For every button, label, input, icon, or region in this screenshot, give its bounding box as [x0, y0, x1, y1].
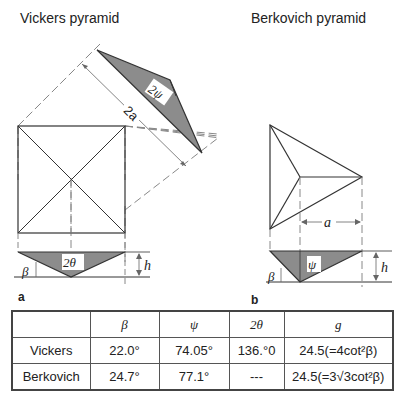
header-beta: β — [90, 311, 159, 338]
berkovich-a-label: a — [324, 215, 331, 230]
cell-psi: 74.05° — [159, 338, 229, 364]
two-theta-label: 2θ — [63, 255, 77, 270]
header-g: g — [284, 311, 393, 338]
table-row: Berkovich 24.7° 77.1° --- 24.5(=3√3cot²β… — [12, 364, 393, 391]
psi-label: ψ — [308, 257, 317, 272]
header-empty — [12, 311, 90, 338]
vickers-projection-lines — [18, 44, 220, 262]
header-two-theta: 2θ — [229, 311, 284, 338]
cell-two-theta: 136.°0 — [229, 338, 284, 364]
table-header-row: β ψ 2θ g — [12, 311, 393, 338]
row-name: Berkovich — [12, 364, 90, 391]
vickers-h-label: h — [144, 258, 151, 273]
cell-two-theta: --- — [229, 364, 284, 391]
table-row: Vickers 22.0° 74.05° 136.°0 24.5(=4cot²β… — [12, 338, 393, 364]
indenter-properties-table: β ψ 2θ g Vickers 22.0° 74.05° 136.°0 24.… — [11, 310, 394, 391]
panel-label-a: a — [18, 290, 25, 304]
cell-beta: 22.0° — [90, 338, 159, 364]
cell-beta: 24.7° — [90, 364, 159, 391]
cell-g: 24.5(=4cot²β) — [284, 338, 393, 364]
berkovich-h-label: h — [381, 260, 388, 275]
cell-g: 24.5(=3√3cot²β) — [284, 364, 393, 391]
vickers-beta-label: β — [21, 264, 29, 279]
row-name: Vickers — [12, 338, 90, 364]
header-psi: ψ — [159, 311, 229, 338]
cell-psi: 77.1° — [159, 364, 229, 391]
berkovich-beta-label: β — [267, 269, 275, 284]
panel-label-b: b — [251, 293, 258, 307]
pyramid-diagrams: 2ψ 2a 2θ β h a ψ β h — [0, 0, 406, 300]
berkovich-triangle — [270, 125, 362, 229]
